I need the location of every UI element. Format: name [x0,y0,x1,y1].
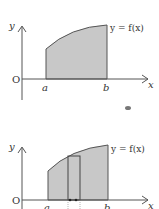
y-axis-label: y [8,141,15,152]
shaded-region [48,145,108,200]
strip-point-left [69,199,72,202]
strip-point-right [75,199,78,202]
origin-label: O [12,195,20,206]
x-axis-label: x [148,79,154,90]
shaded-region [46,25,107,79]
figure: y x O a b y = f(x) y x O a b y = f(x) [0,0,159,209]
b-label: b [103,82,109,93]
y-axis-label: y [8,20,15,31]
curve-label: y = f(x) [110,144,145,154]
smudge-mark [125,106,131,110]
diagram-area-with-strip: y x O a b y = f(x) [8,141,154,209]
curve-label: y = f(x) [109,23,144,33]
origin-label: O [12,74,20,85]
b-label: b [104,202,110,209]
a-label: a [44,202,50,209]
a-label: a [42,82,48,93]
diagram-area-under-curve: y x O a b y = f(x) [8,20,154,100]
x-axis-label: x [148,200,154,209]
